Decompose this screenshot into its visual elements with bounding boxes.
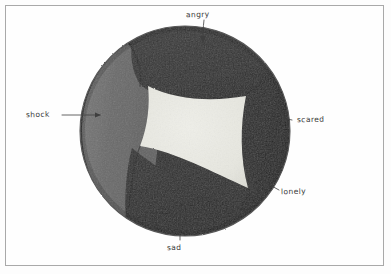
scanned-page: angry shock scared lonely sad <box>0 0 391 274</box>
label-sad: sad <box>167 243 182 252</box>
label-angry: angry <box>186 10 210 19</box>
label-scared: scared <box>297 115 325 125</box>
illustration-stage: angry shock scared lonely sad <box>0 0 391 274</box>
label-lonely: lonely <box>281 187 306 197</box>
ball-illustration <box>0 0 391 274</box>
label-shock: shock <box>26 110 50 119</box>
